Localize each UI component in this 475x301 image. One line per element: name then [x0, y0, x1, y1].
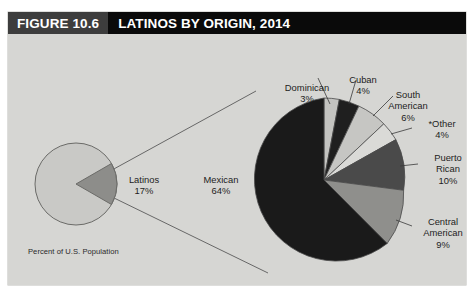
pie-label-puerto-rican-value: 10%: [422, 175, 474, 186]
pie-label-cuban: Cuban 4%: [342, 74, 384, 97]
pie-label-mexican-name: Mexican: [204, 174, 239, 185]
pie-label-mexican-value: 64%: [190, 185, 252, 196]
pie-label-mexican: Mexican 64%: [190, 174, 252, 197]
figure-title: LATINOS BY ORIGIN, 2014: [108, 12, 300, 34]
pie-label-cuban-value: 4%: [342, 85, 384, 96]
pie-label-other-name: *Other: [428, 118, 455, 129]
pie-label-dominican-value: 3%: [276, 93, 338, 104]
pie-label-dominican: Dominican 3%: [276, 82, 338, 105]
figure-number-label: FIGURE 10.6: [8, 12, 108, 34]
pie-label-south-american-name2: American: [380, 100, 436, 111]
pie-label-puerto-rican-name: Puerto: [434, 152, 462, 163]
pie-label-central-american: Central American 9%: [414, 216, 472, 250]
pie-label-other-value: 4%: [418, 129, 466, 140]
chart-caption: Percent of U.S. Population: [28, 247, 119, 256]
pie-label-south-american-name: South: [396, 89, 421, 100]
pie-label-puerto-rican-name2: Rican: [422, 163, 474, 174]
pie-label-other: *Other 4%: [418, 118, 466, 141]
chart-area: Dominican 3% Cuban 4% South American 6% …: [8, 34, 466, 285]
pie-label-central-american-value: 9%: [414, 239, 472, 250]
figure-root: FIGURE 10.6 LATINOS BY ORIGIN, 2014: [0, 0, 475, 301]
pie-label-dominican-name: Dominican: [285, 82, 329, 93]
pie-label-puerto-rican: Puerto Rican 10%: [422, 152, 474, 186]
pie-label-latinos-name: Latinos: [129, 174, 159, 185]
pie-label-latinos-value: 17%: [118, 185, 170, 196]
pie-label-central-american-name2: American: [414, 227, 472, 238]
pie-label-cuban-name: Cuban: [349, 74, 377, 85]
pie-label-latinos: Latinos 17%: [118, 174, 170, 197]
figure-title-bar: FIGURE 10.6 LATINOS BY ORIGIN, 2014: [8, 12, 466, 34]
inset-pie: [35, 143, 117, 225]
pie-label-central-american-name: Central: [428, 216, 458, 227]
